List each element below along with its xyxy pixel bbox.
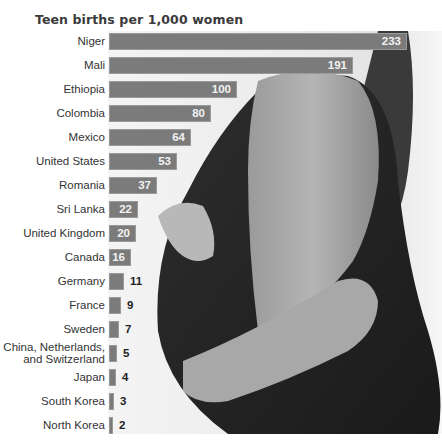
value-label: 4 — [122, 369, 128, 386]
value-label: 5 — [123, 345, 129, 362]
bar: 100 — [109, 81, 237, 98]
bar — [109, 321, 119, 338]
category-label: South Korea — [41, 393, 105, 410]
bar: 80 — [109, 105, 211, 122]
category-label: Niger — [78, 33, 105, 50]
value-label: 11 — [130, 273, 142, 290]
bar-row: Mexico64 — [0, 129, 442, 146]
bar-row: United States53 — [0, 153, 442, 170]
bar-row: Sweden7 — [0, 321, 442, 338]
value-label: 100 — [212, 81, 231, 98]
bar — [109, 417, 113, 434]
value-label: 191 — [328, 57, 347, 74]
bar-row: Mali191 — [0, 57, 442, 74]
bar: 37 — [109, 177, 157, 194]
bar: 233 — [109, 33, 407, 50]
bar-row: Ethiopia100 — [0, 81, 442, 98]
bar: 22 — [109, 201, 138, 218]
value-label: 64 — [172, 129, 185, 146]
bar-row: North Korea2 — [0, 417, 442, 434]
bar-chart: Niger233Mali191Ethiopia100Colombia80Mexi… — [0, 0, 442, 447]
bar-row: United Kingdom20 — [0, 225, 442, 242]
value-label: 2 — [119, 417, 125, 434]
category-label: Canada — [65, 249, 105, 266]
bar: 64 — [109, 129, 191, 146]
category-label: United States — [36, 153, 105, 170]
bar-row: Sri Lanka22 — [0, 201, 442, 218]
bar-row: Germany11 — [0, 273, 442, 290]
category-label: Mali — [84, 57, 105, 74]
bar: 16 — [109, 249, 131, 266]
category-label: France — [69, 297, 105, 314]
category-label: Colombia — [56, 105, 105, 122]
bar-row: France9 — [0, 297, 442, 314]
value-label: 7 — [125, 321, 131, 338]
bar — [109, 369, 116, 386]
value-label: 20 — [117, 225, 130, 242]
category-label: Mexico — [69, 129, 105, 146]
value-label: 37 — [138, 177, 151, 194]
bar-row: Niger233 — [0, 33, 442, 50]
category-label: North Korea — [43, 417, 105, 434]
category-label: United Kingdom — [23, 225, 105, 242]
category-label: Sri Lanka — [56, 201, 105, 218]
bar-row: Japan4 — [0, 369, 442, 386]
category-label: Germany — [58, 273, 105, 290]
bar-row: South Korea3 — [0, 393, 442, 410]
bar-row: Colombia80 — [0, 105, 442, 122]
category-label: Japan — [74, 369, 105, 386]
category-label: China, Netherlands, and Switzerland — [3, 341, 105, 367]
value-label: 3 — [120, 393, 126, 410]
value-label: 16 — [112, 249, 125, 266]
value-label: 9 — [127, 297, 133, 314]
value-label: 53 — [158, 153, 171, 170]
bar — [109, 393, 114, 410]
category-label: Sweden — [63, 321, 105, 338]
bar — [109, 273, 124, 290]
bar-row: Canada16 — [0, 249, 442, 266]
value-label: 80 — [192, 105, 205, 122]
bar: 53 — [109, 153, 177, 170]
value-label: 22 — [119, 201, 132, 218]
bar: 191 — [109, 57, 353, 74]
bar — [109, 345, 117, 362]
bar — [109, 297, 121, 314]
category-label: Ethiopia — [63, 81, 105, 98]
bar: 20 — [109, 225, 136, 242]
category-label: Romania — [59, 177, 105, 194]
value-label: 233 — [382, 33, 401, 50]
bar-row: China, Netherlands, and Switzerland5 — [0, 345, 442, 362]
bar-row: Romania37 — [0, 177, 442, 194]
